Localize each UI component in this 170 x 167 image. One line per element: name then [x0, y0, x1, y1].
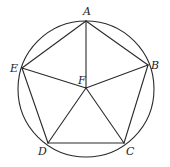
segment-AB	[86, 21, 148, 65]
label-B: B	[150, 59, 159, 72]
label-E: E	[9, 62, 18, 75]
segment-BC	[124, 65, 148, 143]
segment-FC	[86, 88, 124, 143]
label-A: A	[82, 5, 91, 18]
segment-DE	[22, 68, 48, 143]
segment-EA	[22, 21, 86, 68]
label-F: F	[77, 74, 86, 87]
segment-FD	[48, 88, 86, 143]
pentagon-diagram: A B C D E F	[0, 0, 170, 167]
label-C: C	[126, 145, 135, 158]
segment-FB	[86, 65, 148, 88]
label-D: D	[37, 145, 47, 158]
segment-FE	[22, 68, 86, 88]
